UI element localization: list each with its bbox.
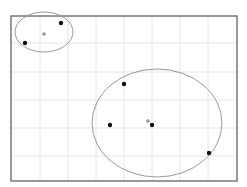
cluster-centroid	[42, 32, 46, 36]
clusters	[15, 12, 222, 177]
cluster-centroid	[146, 119, 150, 123]
data-point	[23, 41, 27, 45]
cluster-plot	[0, 0, 247, 187]
gridlines	[11, 16, 237, 181]
cluster-1	[15, 12, 73, 52]
data-point	[207, 151, 211, 155]
data-point	[108, 123, 112, 127]
cluster-ellipse	[92, 69, 222, 177]
data-point	[150, 123, 154, 127]
data-point	[59, 21, 63, 25]
data-point	[122, 82, 126, 86]
cluster-2	[92, 69, 222, 177]
cluster-ellipse	[15, 12, 73, 52]
